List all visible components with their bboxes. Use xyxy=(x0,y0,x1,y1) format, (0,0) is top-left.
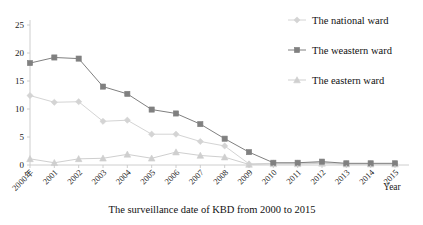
x-tick-label-3: 2003 xyxy=(89,167,108,186)
x-tick-label-1: 2001 xyxy=(41,167,60,186)
legend-marker-square xyxy=(294,47,299,52)
y-tick-label-20: 20 xyxy=(15,48,25,58)
chart-figure: 0510152025 2000年200120022003200420052006… xyxy=(0,0,423,225)
data-point xyxy=(173,131,179,137)
x-axis-ticks: 2000年20012002200320042005200620072008200… xyxy=(10,165,400,193)
x-tick-label-9: 2009 xyxy=(235,167,254,186)
data-point xyxy=(76,56,81,61)
chart-series xyxy=(27,55,399,167)
x-tick-label-0: 2000年 xyxy=(10,167,35,192)
data-point xyxy=(124,117,130,123)
legend-label: The eastern ward xyxy=(312,75,385,86)
x-tick-label-10: 2010 xyxy=(260,167,279,186)
data-point xyxy=(27,156,34,162)
legend-label: The national ward xyxy=(312,15,389,26)
data-point xyxy=(173,111,178,116)
x-tick-label-8: 2008 xyxy=(211,167,230,186)
x-tick-label-11: 2011 xyxy=(284,167,303,186)
x-tick-label-7: 2007 xyxy=(187,167,206,186)
legend-item-1[interactable]: The weastern ward xyxy=(288,45,393,56)
data-point xyxy=(222,136,227,141)
x-axis-title: Year xyxy=(383,182,401,192)
x-tick-label-13: 2013 xyxy=(333,167,352,186)
x-tick-label-12: 2012 xyxy=(308,167,327,186)
x-tick-label-5: 2005 xyxy=(138,167,157,186)
figure-caption: The surveillance date of KBD from 2000 t… xyxy=(108,204,315,215)
data-point xyxy=(149,107,154,112)
y-tick-label-5: 5 xyxy=(20,132,25,142)
series-the-national-ward xyxy=(27,92,398,167)
series-the-weastern-ward xyxy=(27,55,397,166)
y-tick-label-10: 10 xyxy=(15,104,25,114)
data-point xyxy=(197,138,203,144)
y-tick-label-0: 0 xyxy=(20,160,25,170)
legend-item-2[interactable]: The eastern ward xyxy=(288,75,385,86)
data-point xyxy=(149,131,155,137)
x-tick-label-6: 2006 xyxy=(162,167,181,186)
data-point xyxy=(246,150,251,155)
data-point xyxy=(125,91,130,96)
data-point xyxy=(295,160,300,165)
legend-label: The weastern ward xyxy=(312,45,393,56)
y-tick-label-25: 25 xyxy=(15,20,25,30)
data-point xyxy=(52,55,57,60)
data-point xyxy=(173,149,180,155)
data-point xyxy=(27,92,33,98)
y-tick-label-15: 15 xyxy=(15,76,25,86)
data-point xyxy=(51,99,57,105)
data-point xyxy=(100,84,105,89)
series-the-eastern-ward xyxy=(27,149,399,167)
legend-item-0[interactable]: The national ward xyxy=(288,15,389,26)
data-point xyxy=(198,122,203,127)
line-chart: 0510152025 2000年200120022003200420052006… xyxy=(0,0,423,225)
x-tick-label-4: 2004 xyxy=(114,167,134,187)
chart-axes xyxy=(30,20,409,165)
x-tick-label-2: 2002 xyxy=(65,167,84,186)
data-point xyxy=(124,151,131,157)
data-point xyxy=(27,60,32,65)
data-point xyxy=(271,160,276,165)
data-point xyxy=(319,159,324,164)
chart-legend: The national wardThe weastern wardThe ea… xyxy=(288,15,393,86)
legend-marker-diamond xyxy=(294,17,300,23)
x-tick-label-14: 2014 xyxy=(357,167,377,187)
